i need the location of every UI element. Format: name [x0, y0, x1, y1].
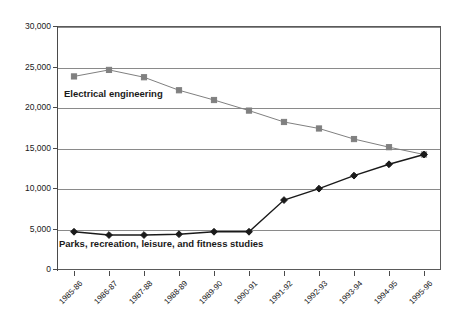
y-axis-line	[57, 26, 58, 271]
y-tick-text: 20,000	[25, 102, 51, 112]
x-axis-tick-label-1992-93: 1992-93	[293, 279, 329, 315]
x-tick-mark	[284, 271, 285, 276]
gridline-5000	[58, 230, 440, 231]
y-tick-text: 5,000	[30, 224, 51, 234]
x-axis-tick-label-1995-96: 1995-96	[398, 279, 434, 315]
x-tick-mark	[109, 271, 110, 276]
gridline-10000	[58, 189, 440, 190]
series-label-electrical-engineering: Electrical engineering	[64, 88, 163, 99]
y-axis-tick-label-0: 0	[0, 264, 51, 274]
x-tick-mark	[74, 271, 75, 276]
x-axis-tick-label-1993-94: 1993-94	[328, 279, 364, 315]
x-tick-mark	[214, 271, 215, 276]
y-axis-tick-label-10000: 10,000	[0, 183, 51, 193]
y-tick-mark	[53, 26, 57, 27]
line-chart: 30,000 25,000 20,000 15,000 10,000 5,000…	[0, 0, 458, 322]
gridline-25000	[58, 68, 440, 69]
x-tick-mark	[354, 271, 355, 276]
y-tick-text: 0	[46, 264, 51, 274]
gridline-20000	[58, 108, 440, 109]
y-tick-mark	[53, 148, 57, 149]
y-tick-text: 30,000	[25, 21, 51, 31]
x-tick-mark	[424, 271, 425, 276]
x-tick-mark	[179, 271, 180, 276]
gridline-15000	[58, 149, 440, 150]
y-tick-text: 10,000	[25, 183, 51, 193]
y-axis-tick-label-20000: 20,000	[0, 102, 51, 112]
x-axis-tick-label-1991-92: 1991-92	[258, 279, 294, 315]
x-axis-tick-label-1994-95: 1994-95	[363, 279, 399, 315]
x-tick-mark	[249, 271, 250, 276]
y-tick-text: 15,000	[25, 143, 51, 153]
x-axis-tick-label-1986-87: 1986-87	[83, 279, 119, 315]
y-tick-text: 25,000	[25, 62, 51, 72]
x-axis-tick-label-1990-91: 1990-91	[223, 279, 259, 315]
plot-area	[57, 26, 441, 270]
x-tick-mark	[144, 271, 145, 276]
x-axis-tick-label-1985-86: 1985-86	[48, 279, 84, 315]
y-axis-tick-label-30000: 30,000	[0, 21, 51, 31]
series-label-parks-recreation: Parks, recreation, leisure, and fitness …	[59, 238, 263, 249]
y-axis-tick-label-5000: 5,000	[0, 224, 51, 234]
y-tick-mark	[53, 107, 57, 108]
y-tick-mark	[53, 269, 57, 270]
x-axis-tick-label-1989-90: 1989-90	[188, 279, 224, 315]
x-tick-mark	[389, 271, 390, 276]
gridline-30000	[58, 27, 440, 28]
y-axis-tick-label-25000: 25,000	[0, 62, 51, 72]
y-axis-tick-label-15000: 15,000	[0, 143, 51, 153]
y-tick-mark	[53, 229, 57, 230]
x-axis-tick-label-1988-89: 1988-89	[153, 279, 189, 315]
x-tick-mark	[319, 271, 320, 276]
y-tick-mark	[53, 67, 57, 68]
y-tick-mark	[53, 188, 57, 189]
x-axis-tick-label-1987-88: 1987-88	[118, 279, 154, 315]
